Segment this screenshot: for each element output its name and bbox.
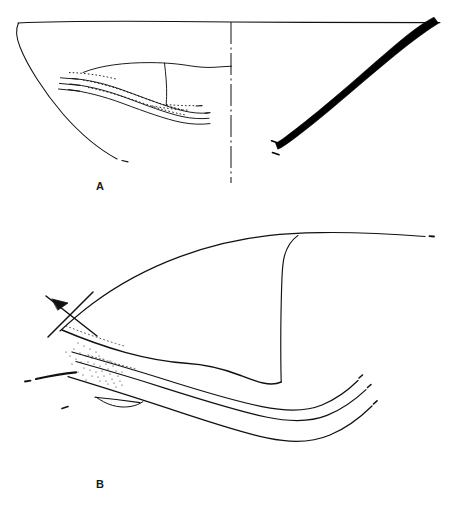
figure-a-band-tick-1	[205, 113, 210, 114]
figure-a-label: A	[96, 180, 104, 192]
figure-b-left-stub-break-dash	[25, 381, 31, 382]
illustration-plate: A B	[0, 0, 450, 509]
plate-background	[0, 0, 450, 509]
figure-b-label: B	[96, 478, 104, 490]
